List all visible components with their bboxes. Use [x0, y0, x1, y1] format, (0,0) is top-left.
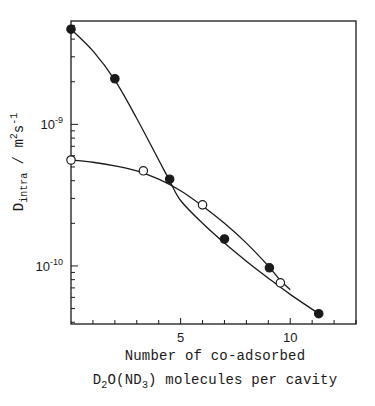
- plot-frame: [71, 21, 356, 324]
- open-data-point: [198, 201, 206, 209]
- x-axis-label-line2: D2O(ND3) molecules per cavity: [0, 372, 375, 388]
- x-tick-label: 10: [283, 330, 297, 345]
- open-data-point: [276, 279, 284, 287]
- fit-filled: [71, 29, 319, 314]
- plot-border: [71, 21, 356, 324]
- x-axis-label-line1: Number of co-adsorbed: [0, 348, 375, 364]
- y-label-sup2: -1: [9, 113, 20, 125]
- filled-data-point: [315, 309, 323, 317]
- filled-data-point: [165, 175, 173, 183]
- open-data-point: [67, 156, 75, 164]
- filled-data-point: [67, 25, 75, 33]
- y-tick-label: 10-9: [41, 115, 63, 132]
- fit-curves: [71, 29, 319, 314]
- filled-data-point: [111, 75, 119, 83]
- y-label-symbol: D: [11, 203, 27, 211]
- x-tick-label: 5: [177, 330, 184, 345]
- x-label-sub2: 3: [142, 380, 148, 391]
- y-label-unit-mid: s: [11, 125, 27, 133]
- x-label-sub1: 2: [101, 380, 107, 391]
- y-label-subscript: intra: [19, 173, 30, 203]
- axis-ticks: [71, 25, 356, 324]
- data-points: [67, 25, 323, 318]
- x-label-part: ) molecules per cavity: [148, 372, 337, 388]
- filled-data-point: [220, 235, 228, 243]
- y-axis-label: Dintra / m2s-1: [11, 113, 27, 211]
- x-label-part: D: [93, 372, 102, 388]
- chart-canvas: 51010-910-10: [0, 0, 375, 406]
- open-data-point: [139, 167, 147, 175]
- y-label-sup1: 2: [9, 133, 20, 139]
- filled-data-point: [265, 264, 273, 272]
- y-tick-label: 10-10: [36, 257, 63, 274]
- y-label-unit: / m: [11, 139, 27, 173]
- x-label-part: O(ND: [107, 372, 141, 388]
- tick-labels: 51010-910-10: [36, 115, 298, 345]
